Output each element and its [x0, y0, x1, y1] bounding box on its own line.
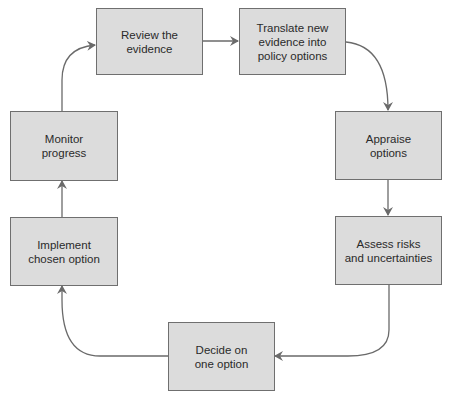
- node-label: Implement chosen option: [28, 238, 100, 266]
- node-decide-option: Decide on one option: [168, 322, 275, 391]
- node-implement-option: Implement chosen option: [10, 217, 118, 286]
- node-label: Translate new evidence into policy optio…: [257, 21, 329, 63]
- policy-cycle-diagram: Review the evidence Translate new eviden…: [0, 0, 452, 400]
- node-label: Decide on one option: [195, 343, 249, 371]
- node-label: Monitor progress: [42, 132, 87, 160]
- node-translate-evidence: Translate new evidence into policy optio…: [239, 8, 346, 75]
- node-assess-risks: Assess risks and uncertainties: [335, 216, 442, 285]
- node-appraise-options: Appraise options: [335, 111, 442, 180]
- node-monitor-progress: Monitor progress: [10, 111, 118, 181]
- arrow-assess-to-decide: [275, 285, 389, 356]
- arrow-decide-to-implement: [62, 286, 168, 356]
- node-label: Appraise options: [366, 132, 411, 160]
- arrow-monitor-to-review: [62, 45, 95, 111]
- arrow-translate-to-appraise: [346, 42, 388, 110]
- node-label: Assess risks and uncertainties: [345, 237, 433, 265]
- node-review-evidence: Review the evidence: [96, 8, 203, 75]
- node-label: Review the evidence: [121, 28, 178, 56]
